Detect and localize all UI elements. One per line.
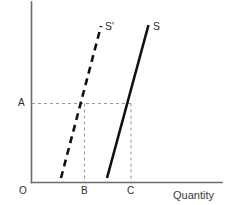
x-axis-title: Quantity (173, 190, 214, 201)
x-tick-label-c: C (127, 186, 134, 196)
x-tick-label-b: B (81, 186, 88, 196)
y-tick-label-a: A (18, 98, 25, 108)
supply-curve-s (107, 25, 149, 178)
supply-curve-s-prime (61, 26, 101, 178)
curve-label-s-prime: S' (105, 21, 114, 32)
supply-curve-figure: S' S A B C O Quantity (0, 0, 235, 205)
figure-canvas (0, 0, 235, 205)
curve-label-s: S (153, 21, 160, 32)
origin-label: O (19, 186, 27, 196)
